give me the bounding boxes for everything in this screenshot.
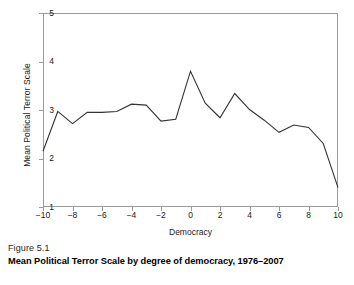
x-tick-label: 2	[207, 211, 233, 220]
line-chart-svg	[43, 13, 338, 207]
x-tick-label: −10	[30, 211, 56, 220]
figure-container: Mean Political Terror Scale Democracy 12…	[0, 0, 354, 285]
x-tickmark	[73, 207, 74, 211]
x-tick-label: 6	[266, 211, 292, 220]
figure-caption: Figure 5.1 Mean Political Terror Scale b…	[8, 243, 350, 266]
x-tickmark	[309, 207, 310, 211]
x-tickmark	[250, 207, 251, 211]
x-tick-label: −4	[119, 211, 145, 220]
x-tick-label: −2	[148, 211, 174, 220]
chart-plot-region: Mean Political Terror Scale Democracy 12…	[0, 0, 354, 240]
x-tick-label: 0	[178, 211, 204, 220]
caption-figure-number: Figure 5.1	[8, 243, 350, 253]
x-tickmark	[191, 207, 192, 211]
x-tick-label: 10	[325, 211, 351, 220]
x-tickmark	[220, 207, 221, 211]
x-tick-label: 4	[237, 211, 263, 220]
x-tick-label: 8	[296, 211, 322, 220]
x-tick-label: −6	[89, 211, 115, 220]
x-tickmark	[338, 207, 339, 211]
x-tick-label: −8	[60, 211, 86, 220]
x-tickmark	[279, 207, 280, 211]
caption-title: Mean Political Terror Scale by degree of…	[8, 256, 350, 266]
x-tickmark	[102, 207, 103, 211]
y-tickmark	[39, 62, 43, 63]
x-axis-title: Democracy	[43, 227, 338, 237]
y-tickmark	[39, 13, 43, 14]
x-tickmark	[43, 207, 44, 211]
y-tickmark	[39, 159, 43, 160]
x-tickmark	[161, 207, 162, 211]
y-tickmark	[39, 110, 43, 111]
data-series-line	[43, 71, 338, 187]
x-tickmark	[132, 207, 133, 211]
